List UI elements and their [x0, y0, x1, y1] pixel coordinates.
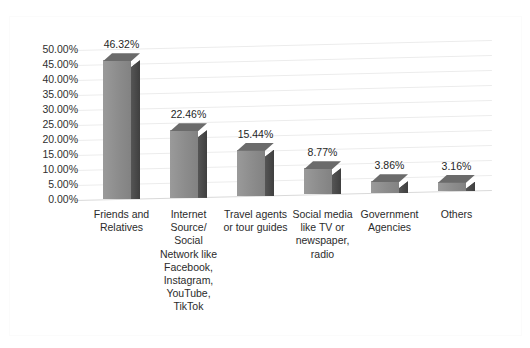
y-axis-tick-label: 35.00% — [22, 89, 78, 100]
bar-top-face — [103, 53, 140, 61]
y-axis-tick-labels: 50.00%45.00%40.00%35.00%30.00%25.00%20.0… — [18, 0, 78, 348]
bar-front-face — [438, 182, 466, 191]
bar-front-face — [170, 130, 198, 197]
y-axis-tick-label: 15.00% — [22, 149, 78, 160]
x-axis-category-label: Travel agents or tour guides — [223, 208, 288, 234]
bar-front-face — [103, 60, 131, 199]
chart-plot-area: 50.00%45.00%40.00%35.00%30.00%25.00%20.0… — [0, 0, 530, 348]
x-axis-category-label: Internet Source/ Social Network like Fac… — [156, 208, 221, 314]
bar-data-label: 3.86% — [365, 159, 414, 171]
bar-top-face — [438, 175, 475, 183]
bar-data-label: 3.16% — [432, 160, 481, 172]
y-axis-tick-label: 25.00% — [22, 119, 78, 130]
y-axis-tick-label: 45.00% — [22, 59, 78, 70]
y-axis-tick-label: 50.00% — [22, 44, 78, 55]
bar-side-face — [265, 150, 274, 196]
bar-front-face — [371, 181, 399, 193]
bar-side-face — [131, 60, 140, 199]
x-axis-category-label: Government Agencies — [357, 208, 422, 234]
bar-front-face — [237, 150, 265, 196]
y-axis-tick-label: 5.00% — [22, 179, 78, 190]
bar-side-face — [399, 181, 408, 193]
bar-top-face — [304, 161, 341, 169]
bar-data-label: 8.77% — [298, 146, 347, 158]
bar-data-label: 46.32% — [97, 38, 146, 50]
bar-side-face — [332, 168, 341, 194]
bar-column[interactable] — [371, 174, 408, 193]
bar-data-label: 22.46% — [164, 108, 213, 120]
bar-column[interactable] — [438, 175, 475, 191]
y-axis-tick-label: 40.00% — [22, 74, 78, 85]
bar-column[interactable] — [103, 53, 140, 199]
x-axis-category-label: Social media like TV or newspaper, radio — [290, 208, 355, 261]
y-axis-tick-label: 0.00% — [22, 194, 78, 205]
x-axis-category-label: Friends and Relatives — [89, 208, 154, 234]
bar-data-label: 15.44% — [231, 128, 280, 140]
bar-top-face — [237, 143, 274, 151]
bar-top-face — [371, 174, 408, 182]
bar-front-face — [304, 168, 332, 194]
bar-side-face — [198, 130, 207, 197]
bar-column[interactable] — [304, 161, 341, 194]
y-axis-tick-label: 30.00% — [22, 104, 78, 115]
y-axis-tick-label: 10.00% — [22, 164, 78, 175]
x-axis-category-label: Others — [424, 208, 489, 221]
bar-side-face — [466, 182, 475, 191]
y-axis-tick-label: 20.00% — [22, 134, 78, 145]
bar-top-face — [170, 123, 207, 131]
bar-column[interactable] — [170, 123, 207, 197]
bar-column[interactable] — [237, 143, 274, 196]
